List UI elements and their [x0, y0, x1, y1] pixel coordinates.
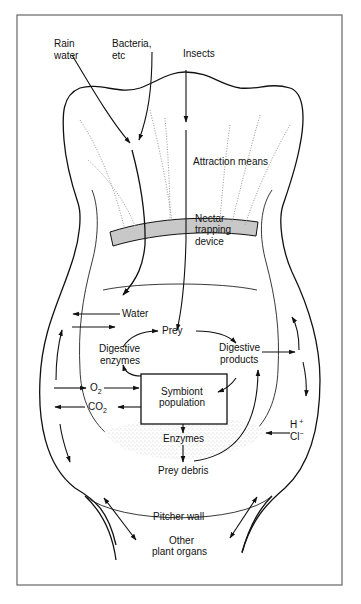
label-digestive-products-2: products: [220, 354, 258, 365]
label-other: Other: [169, 535, 195, 546]
label-trapping: trapping: [195, 224, 231, 235]
rain-water-arrow: [72, 55, 130, 143]
label-symbiont: Symbiont: [161, 386, 203, 397]
attraction-veins: [80, 110, 290, 230]
label-digestive-products-1: Digestive: [219, 342, 261, 353]
right-exchange-arrow: [230, 497, 257, 538]
label-attraction: Attraction means: [193, 156, 268, 167]
right-down-arrow: [303, 362, 306, 396]
label-digestive-enzymes-1: Digestive: [99, 343, 141, 354]
pitcher-plant-diagram: Rain water Bacteria, etc Insects Attract…: [0, 0, 361, 604]
left-up-arrow: [56, 330, 62, 380]
left-down-arrow: [60, 424, 70, 462]
label-co2: CO2: [88, 401, 107, 414]
label-water-top: water: [53, 50, 79, 61]
box-to-enzymes-arrow: [123, 365, 141, 376]
nectar-band: [110, 218, 258, 246]
label-bacteria: Bacteria,: [112, 38, 151, 49]
label-plant-organs: plant organs: [152, 546, 207, 557]
liquid-boundary: [103, 284, 257, 290]
label-cl-minus: Cl−: [290, 430, 304, 442]
left-exchange-arrow: [104, 498, 136, 540]
label-prey-debris: Prey debris: [158, 465, 209, 476]
label-prey: Prey: [162, 325, 183, 336]
bacteria-arrow: [139, 52, 152, 140]
label-etc: etc: [112, 50, 125, 61]
label-rain: Rain: [54, 38, 75, 49]
label-water: Water: [122, 308, 149, 319]
label-nectar: Nectar: [195, 213, 225, 224]
label-h-plus: H+: [290, 418, 303, 430]
label-o2: O2: [90, 382, 102, 395]
label-population: population: [159, 397, 205, 408]
right-up-arrow: [292, 317, 299, 350]
label-pitcher-wall: Pitcher wall: [153, 511, 204, 522]
label-device: device: [195, 236, 224, 247]
figure-frame: [17, 15, 342, 585]
label-enzymes: Enzymes: [163, 433, 204, 444]
label-digestive-enzymes-2: enzymes: [100, 355, 140, 366]
label-insects: Insects: [183, 48, 215, 59]
